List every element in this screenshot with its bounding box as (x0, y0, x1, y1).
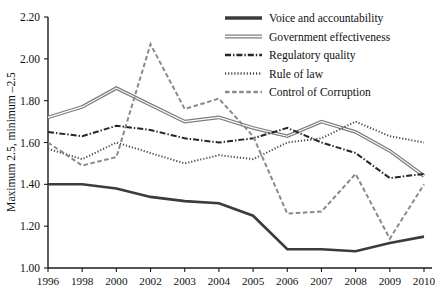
series-voice-and-accountability (48, 184, 424, 251)
series-rule-of-law (48, 122, 424, 164)
legend-label: Government effectiveness (269, 31, 391, 44)
legend-item-3[interactable]: Regulatory quality (225, 49, 356, 62)
y-tick-label: 1.00 (20, 262, 40, 274)
series-regulatory-quality (48, 126, 424, 178)
y-tick-label: 1.20 (20, 220, 40, 232)
legend-label: Control of Corruption (269, 86, 371, 99)
series-line (48, 126, 424, 178)
x-tick-label: 2006 (276, 275, 299, 287)
x-tick-label: 1996 (37, 275, 60, 287)
x-axis: 1996199820002002200320042005200620072008… (37, 268, 436, 287)
x-tick-label: 2002 (139, 275, 161, 287)
y-tick-label: 2.20 (20, 11, 40, 23)
legend-item-4[interactable]: Rule of law (225, 68, 324, 81)
line-chart: 1.001.201.401.601.802.002.20 19961998200… (0, 0, 440, 304)
chart-legend: Voice and accountabilityGovernment effec… (225, 12, 391, 99)
legend-label: Voice and accountability (269, 12, 384, 25)
series-layer (48, 44, 424, 251)
chart-canvas: 1.001.201.401.601.802.002.20 19961998200… (0, 0, 440, 304)
x-tick-label: 2000 (105, 275, 128, 287)
series-line (48, 184, 424, 251)
x-tick-label: 2007 (310, 275, 333, 287)
legend-item-1[interactable]: Voice and accountability (225, 12, 384, 25)
y-axis: 1.001.201.401.601.802.002.20 (20, 11, 48, 274)
y-tick-label: 2.00 (20, 53, 40, 65)
y-tick-label: 1.80 (20, 95, 40, 107)
x-tick-label: 2008 (344, 275, 367, 287)
series-line (48, 122, 424, 164)
legend-item-5[interactable]: Control of Corruption (225, 86, 371, 99)
x-tick-label: 2003 (174, 275, 197, 287)
legend-label: Regulatory quality (269, 49, 356, 62)
x-tick-label: 2009 (379, 275, 402, 287)
legend-item-2[interactable]: Government effectiveness (225, 31, 391, 44)
x-tick-label: 2004 (208, 275, 231, 287)
x-tick-label: 1998 (71, 275, 94, 287)
x-tick-label: 2005 (242, 275, 265, 287)
y-tick-label: 1.60 (20, 137, 40, 149)
y-tick-label: 1.40 (20, 178, 40, 190)
x-tick-label: 2010 (413, 275, 436, 287)
y-axis-title: Maximum 2.5, minimum –2.5 (5, 72, 18, 212)
legend-label: Rule of law (269, 68, 324, 81)
